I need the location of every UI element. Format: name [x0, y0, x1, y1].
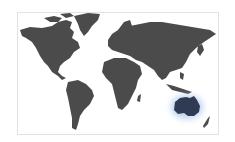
region-arctic-islands: [44, 13, 74, 22]
region-indonesia[interactable]: [166, 84, 192, 94]
region-philippines: [180, 72, 184, 80]
region-new-zealand[interactable]: [203, 116, 210, 128]
region-africa[interactable]: [102, 58, 142, 110]
region-north-america[interactable]: [20, 20, 80, 80]
world-map: [0, 0, 235, 142]
region-south-america[interactable]: [66, 80, 94, 130]
region-greenland[interactable]: [74, 13, 100, 36]
region-madagascar: [137, 94, 141, 102]
